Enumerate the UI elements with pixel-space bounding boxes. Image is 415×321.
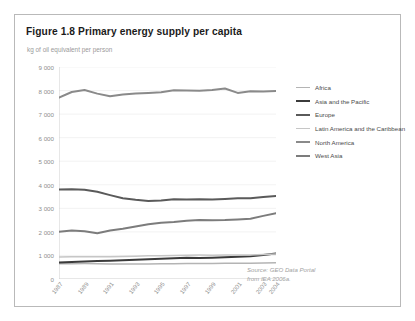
legend-item[interactable]: West Asia (296, 149, 400, 163)
x-axis-tick: 1995 (153, 281, 166, 295)
plot-area (59, 67, 276, 279)
y-axis-tick: 0 (51, 276, 54, 283)
x-axis-tick: 2001 (229, 281, 242, 295)
legend-item[interactable]: Asia and the Pacific (296, 95, 400, 109)
legend-swatch-icon (296, 114, 310, 116)
figure-card: Figure 1.8 Primary energy supply per cap… (14, 14, 401, 307)
legend-swatch-icon (296, 141, 310, 143)
y-axis-tick: 8 000 (39, 87, 54, 94)
legend-item-label: Asia and the Pacific (315, 98, 369, 105)
legend-item-label: Africa (315, 84, 331, 91)
x-axis-tick: 1991 (102, 281, 115, 295)
y-axis-tick: 1 000 (39, 252, 54, 259)
legend-swatch-icon (296, 128, 310, 129)
series-line (59, 88, 276, 97)
y-axis-tick: 7 000 (39, 111, 54, 118)
x-axis-tick: 1989 (76, 281, 89, 295)
y-axis-tick: 6 000 (39, 134, 54, 141)
y-axis-tick: 2 000 (39, 228, 54, 235)
legend-item[interactable]: Africa (296, 81, 400, 95)
series-lines (59, 67, 276, 279)
x-axis-tick-labels: 1987198919911993199519971999200120032004 (59, 279, 276, 309)
source-line-1: Source: GEO Data Portal (247, 265, 392, 274)
y-axis-tick: 5 000 (39, 158, 54, 165)
legend-swatch-icon (296, 100, 310, 102)
x-axis-tick: 1999 (204, 281, 217, 295)
series-line (59, 263, 276, 264)
series-line (59, 213, 276, 233)
chart-legend: AfricaAsia and the PacificEuropeLatin Am… (296, 81, 400, 163)
y-axis-unit-label: kg of oil equivalent per person (27, 46, 112, 53)
legend-item-label: North America (315, 139, 354, 146)
source-note: Source: GEO Data Portal from IEA 2006a. (247, 265, 392, 283)
figure-title: Figure 1.8 Primary energy supply per cap… (26, 26, 242, 37)
legend-item-label: Europe (315, 111, 335, 118)
y-axis-tick: 9 000 (39, 64, 54, 71)
legend-item-label: Latin America and the Caribbean (315, 125, 405, 132)
legend-item[interactable]: Latin America and the Caribbean (296, 122, 400, 136)
y-axis-tick: 3 000 (39, 205, 54, 212)
source-line-2: from IEA 2006a. (247, 274, 392, 283)
legend-item-label: West Asia (315, 152, 342, 159)
x-axis-tick: 1993 (127, 281, 140, 295)
legend-swatch-icon (296, 87, 310, 88)
y-axis-tick: 4 000 (39, 181, 54, 188)
legend-swatch-icon (296, 155, 310, 157)
x-axis-tick: 1987 (51, 281, 64, 295)
legend-item[interactable]: Europe (296, 108, 400, 122)
series-line (59, 189, 276, 201)
x-axis-tick: 1997 (178, 281, 191, 295)
legend-item[interactable]: North America (296, 135, 400, 149)
y-axis-tick-labels: 01 0002 0003 0004 0005 0006 0007 0008 00… (15, 67, 57, 279)
